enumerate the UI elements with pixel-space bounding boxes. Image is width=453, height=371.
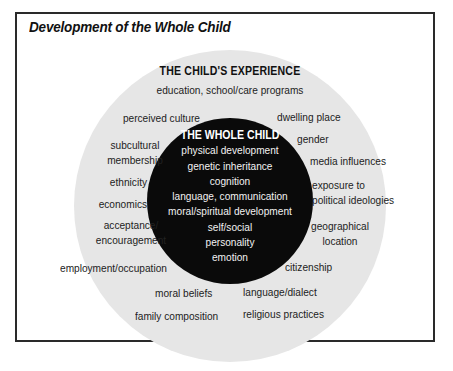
outer-item-moral-beliefs: moral beliefs (155, 286, 212, 301)
inner-heading: THE WHOLE CHILD (157, 128, 303, 143)
outer-item-language-dialect: language/dialect (243, 285, 317, 300)
whole-child-list: THE WHOLE CHILD physical development gen… (157, 128, 303, 266)
outer-item-ethnicity: ethnicity (97, 175, 147, 190)
inner-item-cognition: cognition (157, 174, 303, 189)
inner-item-language: language, communication (157, 189, 303, 204)
outer-item-media-influences: media influences (310, 154, 386, 169)
outer-item-dwelling-place: dwelling place (277, 110, 341, 125)
diagram-title: Development of the Whole Child (29, 18, 231, 35)
outer-item-family-composition: family composition (135, 309, 218, 324)
inner-item-physical: physical development (157, 143, 303, 158)
outer-item-employment: employment/occupation (60, 261, 167, 276)
inner-item-self-social: self/social (157, 220, 303, 235)
inner-item-emotion: emotion (157, 250, 303, 265)
outer-item-education: education, school/care programs (142, 83, 318, 98)
outer-item-geographical-location: geographical location (305, 219, 375, 249)
outer-heading: THE CHILD'S EXPERIENCE (160, 64, 301, 79)
outer-item-religious-practices: religious practices (243, 307, 324, 322)
outer-item-economics: economics (88, 197, 147, 212)
inner-item-moral-spiritual: moral/spiritual development (157, 204, 303, 219)
outer-item-political-ideologies: exposure to political ideologies (312, 178, 400, 208)
outer-item-perceived-culture: perceived culture (103, 111, 200, 126)
inner-item-personality: personality (157, 235, 303, 250)
inner-item-genetic: genetic inheritance (157, 159, 303, 174)
